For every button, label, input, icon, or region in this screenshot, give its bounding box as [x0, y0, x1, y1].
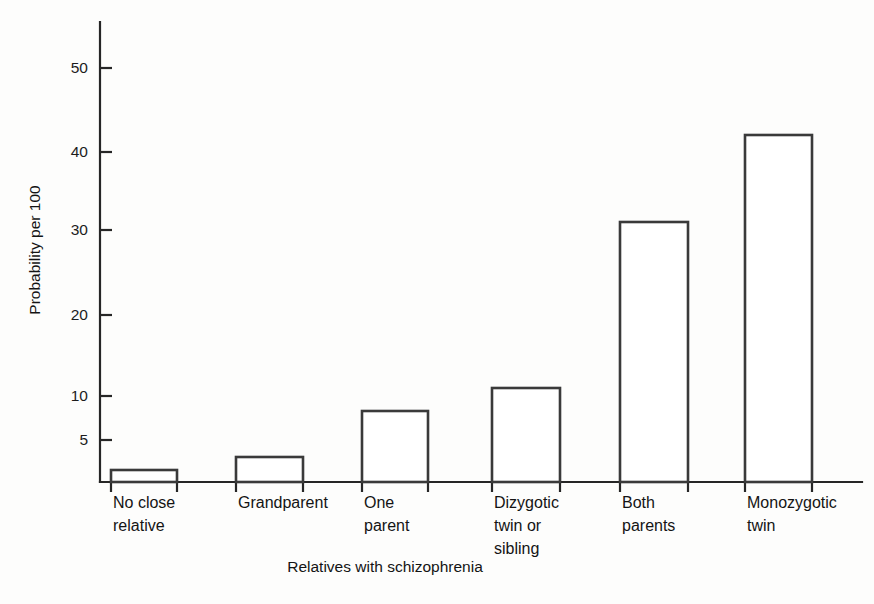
bar-3 [492, 388, 560, 482]
category-label-4-line-1: parents [622, 517, 675, 534]
bar-5 [745, 135, 812, 482]
category-label-0-line-1: relative [113, 517, 165, 534]
category-label-3-line-0: Dizygotic [494, 494, 559, 511]
y-tick-label-30: 30 [71, 221, 89, 238]
y-axis-tick-labels: 51020304050 [71, 59, 89, 448]
bar-0 [111, 470, 177, 482]
axis-titles-group: Relatives with schizophreniaProbability … [26, 185, 483, 575]
category-label-4-line-0: Both [622, 494, 655, 511]
x-axis-title: Relatives with schizophrenia [287, 558, 483, 575]
y-tick-label-20: 20 [71, 306, 89, 323]
bar-1 [236, 457, 303, 482]
category-label-4: Bothparents [622, 494, 675, 534]
y-axis-title: Probability per 100 [26, 185, 43, 315]
category-label-0-line-0: No close [113, 494, 175, 511]
category-label-3-line-1: twin or [494, 517, 542, 534]
category-label-5-line-0: Monozygotic [747, 494, 837, 511]
bar-chart-canvas: 51020304050 No closerelativeGrandparentO… [0, 0, 874, 604]
category-label-5: Monozygotictwin [747, 494, 837, 534]
category-label-2-line-0: One [364, 494, 394, 511]
bar-4 [620, 222, 688, 482]
y-tick-label-40: 40 [71, 143, 89, 160]
y-tick-label-50: 50 [71, 59, 89, 76]
category-label-2: Oneparent [364, 494, 410, 534]
category-label-3-line-2: sibling [494, 540, 539, 557]
y-tick-label-10: 10 [71, 387, 89, 404]
x-axis-category-labels: No closerelativeGrandparentOneparentDizy… [113, 494, 837, 557]
y-axis-ticks [100, 68, 112, 440]
y-tick-label-5: 5 [79, 431, 88, 448]
category-label-1-line-0: Grandparent [238, 494, 328, 511]
category-label-5-line-1: twin [747, 517, 775, 534]
category-label-1: Grandparent [238, 494, 328, 511]
category-label-0: No closerelative [113, 494, 175, 534]
category-label-2-line-1: parent [364, 517, 410, 534]
x-axis-ticks [111, 482, 812, 492]
bars-group [111, 135, 812, 482]
category-label-3: Dizygotictwin orsibling [494, 494, 559, 557]
chart-figure: 51020304050 No closerelativeGrandparentO… [0, 0, 874, 604]
bar-2 [362, 411, 428, 482]
